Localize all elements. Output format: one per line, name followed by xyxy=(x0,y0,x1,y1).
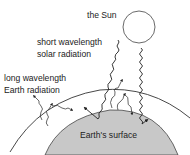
sun-label: the Sun xyxy=(87,10,117,20)
solar-radiation-ray-2 xyxy=(140,48,148,124)
earth-radiation-ray-4 xyxy=(111,80,123,108)
earth-radiation-ray-1 xyxy=(46,104,52,126)
earth-radiation-label-2: Earth radiation xyxy=(4,85,60,95)
solar-radiation-label-2: solar radiation xyxy=(37,49,91,59)
earth-radiation-ray-2 xyxy=(34,96,43,120)
earth-surface-label: Earth's surface xyxy=(80,130,137,140)
solar-radiation-label-1: short wavelength xyxy=(37,37,102,47)
earth-radiation-ray-5 xyxy=(117,94,125,110)
earth-radiation-label-1: long wavelength xyxy=(4,73,66,83)
sun xyxy=(123,11,155,43)
greenhouse-effect-diagram: the Sun short wavelength solar radiation… xyxy=(0,0,190,155)
